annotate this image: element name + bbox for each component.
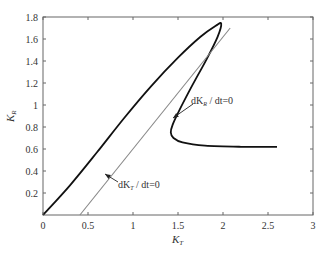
x-axis-label: KT	[171, 233, 184, 247]
annotation-dkr: dKR / dt=0	[191, 95, 233, 107]
x-tick-label: 2.5	[262, 220, 275, 231]
x-tick-label: 1	[131, 220, 136, 231]
x-tick-label: 3	[311, 220, 316, 231]
annotation-dkt: dKT / dt=0	[118, 179, 160, 191]
y-tick-label: 1.6	[26, 34, 39, 45]
axis-ticks: 00.511.522.530.20.40.60.811.21.41.61.8	[26, 12, 316, 232]
chart: 00.511.522.530.20.40.60.811.21.41.61.8 K…	[0, 0, 328, 256]
y-tick-label: 1.8	[26, 12, 39, 23]
x-tick-label: 2	[221, 220, 226, 231]
x-tick-label: 1.5	[172, 220, 185, 231]
x-tick-label: 0.5	[82, 220, 95, 231]
y-tick-label: 0.4	[26, 166, 39, 177]
y-axis-label: KR	[4, 110, 18, 123]
plot-area	[43, 17, 313, 215]
y-tick-label: 1.2	[26, 78, 39, 89]
trajectory-curve	[43, 23, 277, 215]
y-tick-label: 1.4	[26, 56, 39, 67]
y-tick-label: 0.8	[26, 122, 39, 133]
y-tick-label: 1	[33, 100, 38, 111]
x-tick-label: 0	[41, 220, 46, 231]
y-tick-label: 0.6	[26, 144, 39, 155]
y-tick-label: 0.2	[26, 188, 39, 199]
